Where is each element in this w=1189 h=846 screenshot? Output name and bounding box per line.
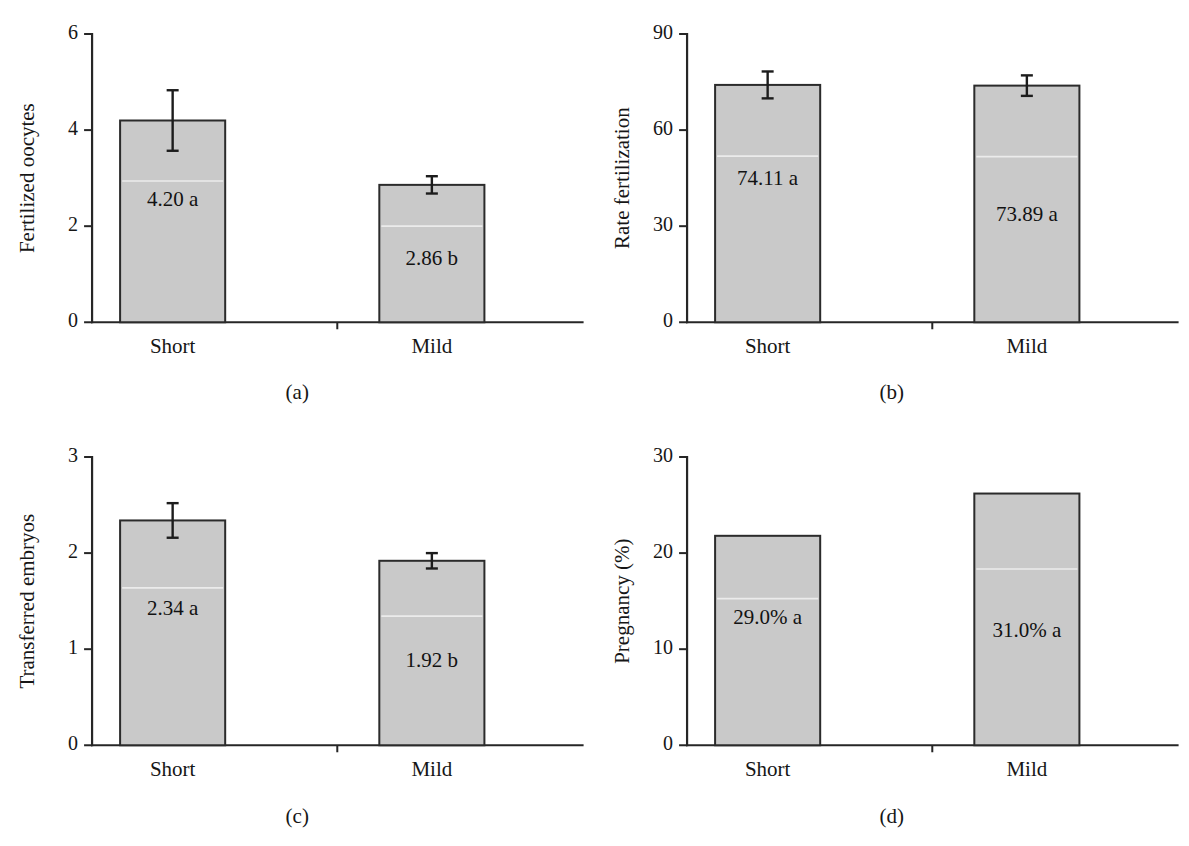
y-tick-label: 0 bbox=[68, 732, 78, 754]
panel-b-y-ticks: 0306090 bbox=[653, 21, 687, 331]
y-tick-label: 1 bbox=[68, 636, 78, 658]
panel-d-y-axis-title: Pregnancy (%) bbox=[610, 539, 634, 664]
bar bbox=[715, 85, 820, 322]
bar-value-label: 73.89 a bbox=[995, 202, 1058, 226]
bar-value-label: 2.34 a bbox=[147, 597, 199, 621]
category-label: Short bbox=[744, 758, 790, 782]
y-tick-label: 2 bbox=[68, 540, 78, 562]
panel-a-bars: 4.20 a2.86 b bbox=[120, 90, 484, 322]
y-tick-label: 20 bbox=[653, 540, 673, 562]
panel-c-category-labels: ShortMild bbox=[150, 746, 453, 782]
panel-d-category-labels: ShortMild bbox=[744, 746, 1047, 782]
y-tick-label: 6 bbox=[68, 21, 78, 43]
y-tick-label: 10 bbox=[653, 636, 673, 658]
figure-four-panel-bar-charts: 0246 4.20 a2.86 b ShortMild Fertilized o… bbox=[0, 0, 1189, 846]
y-tick-label: 30 bbox=[653, 213, 673, 235]
category-label: Mild bbox=[1006, 334, 1047, 358]
panel-a-subcaption: (a) bbox=[0, 380, 595, 405]
bar-value-label: 29.0% a bbox=[733, 606, 802, 630]
panel-a: 0246 4.20 a2.86 b ShortMild Fertilized o… bbox=[0, 0, 595, 423]
panel-a-plot: 0246 4.20 a2.86 b ShortMild Fertilized o… bbox=[0, 0, 595, 423]
y-tick-label: 60 bbox=[653, 117, 673, 139]
category-label: Mild bbox=[411, 334, 452, 358]
bar-value-label: 1.92 b bbox=[406, 648, 459, 672]
panel-b-bars: 74.11 a73.89 a bbox=[715, 71, 1079, 322]
panel-c: 0123 2.34 a1.92 b ShortMild Transferred … bbox=[0, 423, 595, 846]
panel-d-subcaption: (d) bbox=[595, 804, 1189, 829]
panel-a-y-axis-title: Fertilized oocytes bbox=[15, 103, 39, 253]
panel-c-subcaption: (c) bbox=[0, 804, 595, 829]
category-label: Mild bbox=[1006, 758, 1047, 782]
panel-b: 0306090 74.11 a73.89 a ShortMild Rate fe… bbox=[595, 0, 1189, 423]
y-tick-label: 0 bbox=[663, 309, 673, 331]
panel-d: 0102030 29.0% a31.0% a ShortMild Pregnan… bbox=[595, 423, 1189, 846]
panel-b-category-labels: ShortMild bbox=[744, 322, 1047, 358]
y-tick-label: 90 bbox=[653, 21, 673, 43]
bar bbox=[120, 521, 225, 746]
y-tick-label: 30 bbox=[653, 444, 673, 466]
y-tick-label: 0 bbox=[663, 732, 673, 754]
panel-b-plot: 0306090 74.11 a73.89 a ShortMild Rate fe… bbox=[595, 0, 1189, 423]
panel-c-bars: 2.34 a1.92 b bbox=[120, 503, 484, 745]
bar-value-label: 4.20 a bbox=[147, 187, 199, 211]
panel-d-y-ticks: 0102030 bbox=[653, 444, 687, 754]
bar-value-label: 31.0% a bbox=[992, 618, 1061, 642]
category-label: Short bbox=[150, 334, 196, 358]
panel-a-category-labels: ShortMild bbox=[150, 322, 453, 358]
y-tick-label: 0 bbox=[68, 309, 78, 331]
bar-value-label: 74.11 a bbox=[737, 166, 799, 190]
category-label: Short bbox=[150, 758, 196, 782]
y-tick-label: 4 bbox=[68, 117, 78, 139]
panel-c-y-ticks: 0123 bbox=[68, 444, 92, 754]
y-tick-label: 2 bbox=[68, 213, 78, 235]
panel-d-plot: 0102030 29.0% a31.0% a ShortMild Pregnan… bbox=[595, 423, 1189, 846]
category-label: Mild bbox=[411, 758, 452, 782]
bar-value-label: 2.86 b bbox=[406, 246, 459, 270]
panel-b-subcaption: (b) bbox=[595, 380, 1189, 405]
bar bbox=[715, 536, 820, 745]
panel-c-y-axis-title: Transferred embryos bbox=[15, 514, 39, 689]
panel-a-y-ticks: 0246 bbox=[68, 21, 92, 331]
panel-c-plot: 0123 2.34 a1.92 b ShortMild Transferred … bbox=[0, 423, 595, 846]
panel-b-y-axis-title: Rate fertilization bbox=[610, 107, 634, 249]
y-tick-label: 3 bbox=[68, 444, 78, 466]
category-label: Short bbox=[744, 334, 790, 358]
panel-d-bars: 29.0% a31.0% a bbox=[715, 494, 1079, 746]
